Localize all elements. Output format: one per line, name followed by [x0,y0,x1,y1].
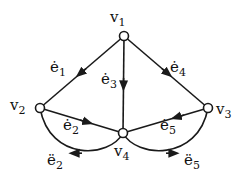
edge-e3-dot [123,36,124,133]
label-v3: v3 [215,100,231,121]
label-v4: v4 [113,142,129,163]
edge-e2-dot [40,108,123,133]
label-e5-dot: ė5 [160,116,176,137]
label-v2: v2 [9,96,25,117]
node-v4 [119,129,128,138]
label-v1: v1 [109,8,125,29]
label-e2-ddot: ë2 [47,151,63,172]
node-v2 [36,104,45,113]
node-v3 [204,104,213,113]
edge-e2-ddot [40,108,123,153]
label-e5-ddot: ë5 [184,151,200,172]
edge-e4-dot [124,36,208,108]
graph-svg: v1 v2 v3 v4 ė1 ė3 ė4 ė2 ė5 ë2 ë5 [0,0,245,186]
label-e3-dot: ė3 [101,70,117,91]
label-e1-dot: ė1 [50,58,66,79]
node-v1 [120,32,129,41]
label-e4-dot: ė4 [170,58,186,79]
graph-diagram: v1 v2 v3 v4 ė1 ė3 ė4 ė2 ė5 ë2 ë5 [0,0,245,186]
